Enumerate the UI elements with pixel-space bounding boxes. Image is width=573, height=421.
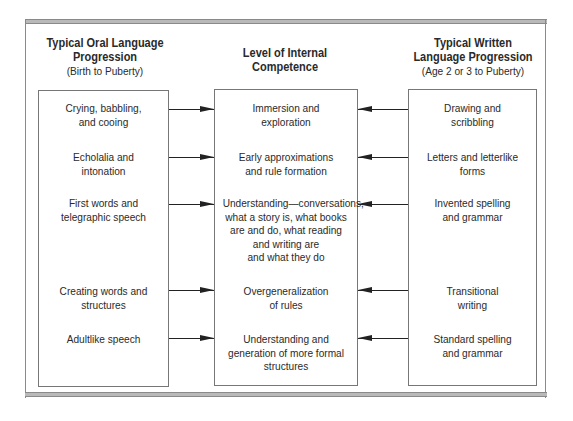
- internal-item-3-line3: are and do, what reading: [223, 224, 350, 238]
- oral-item-3-line1: First words and: [46, 197, 161, 211]
- oral-item-5-line1: Adultlike speech: [46, 333, 161, 347]
- arrow-right-icon: [169, 290, 214, 291]
- oral-item-5: Adultlike speech: [46, 333, 161, 347]
- internal-item-5: Understanding and generation of more for…: [223, 333, 350, 374]
- internal-item-4: Overgeneralization of rules: [223, 285, 350, 312]
- written-title-line2: Language Progression: [403, 50, 544, 64]
- oral-item-3: First words and telegraphic speech: [46, 197, 161, 224]
- oral-column-heading: Typical Oral Language Progression (Birth…: [35, 36, 176, 78]
- written-item-5-line2: and grammar: [416, 347, 530, 361]
- oral-item-3-line2: telegraphic speech: [46, 211, 161, 225]
- internal-item-3-line4: and writing are: [223, 238, 350, 252]
- oral-item-2-line1: Echolalia and: [46, 151, 161, 165]
- internal-item-4-line1: Overgeneralization: [223, 285, 350, 299]
- oral-item-2-line2: intonation: [46, 165, 161, 179]
- arrow-left-icon: [358, 157, 408, 158]
- internal-item-3: Understanding—conversations, what a stor…: [223, 197, 350, 265]
- written-item-3-line1: Invented spelling: [416, 197, 530, 211]
- oral-subtitle: (Birth to Puberty): [35, 64, 176, 78]
- written-item-5-line1: Standard spelling: [416, 333, 530, 347]
- arrow-right-icon: [169, 338, 214, 339]
- internal-item-1-line1: Immersion and: [223, 102, 350, 116]
- arrow-left-icon: [358, 290, 408, 291]
- arrow-left-icon: [358, 109, 408, 110]
- written-title-line1: Typical Written: [403, 36, 544, 50]
- internal-item-3-line2: what a story is, what books: [223, 211, 350, 225]
- internal-item-5-line3: structures: [223, 360, 350, 374]
- written-item-2-line1: Letters and letterlike: [416, 151, 530, 165]
- written-item-5: Standard spelling and grammar: [416, 333, 530, 360]
- internal-item-3-line5: and what they do: [223, 251, 350, 265]
- arrow-right-icon: [169, 157, 214, 158]
- oral-item-4-line2: structures: [46, 299, 161, 313]
- frame-bottom-bar: [25, 392, 547, 397]
- internal-item-2-line1: Early approximations: [223, 151, 350, 165]
- oral-title-line2: Progression: [35, 50, 176, 64]
- oral-item-1: Crying, babbling, and cooing: [46, 102, 161, 129]
- arrow-right-icon: [169, 204, 214, 205]
- written-item-1-line1: Drawing and: [416, 102, 530, 116]
- written-item-4-line2: writing: [416, 299, 530, 313]
- written-item-2-line2: forms: [416, 165, 530, 179]
- written-item-3: Invented spelling and grammar: [416, 197, 530, 224]
- internal-item-5-line2: generation of more formal: [223, 347, 350, 361]
- oral-item-2: Echolalia and intonation: [46, 151, 161, 178]
- internal-item-2-line2: and rule formation: [223, 165, 350, 179]
- oral-item-1-line2: and cooing: [46, 116, 161, 130]
- written-item-4: Transitional writing: [416, 285, 530, 312]
- oral-title-line1: Typical Oral Language: [35, 36, 176, 50]
- arrow-left-icon: [358, 204, 408, 205]
- written-item-4-line1: Transitional: [416, 285, 530, 299]
- oral-item-4: Creating words and structures: [46, 285, 161, 312]
- internal-item-5-line1: Understanding and: [223, 333, 350, 347]
- internal-item-1-line2: exploration: [223, 116, 350, 130]
- arrow-right-icon: [169, 109, 214, 110]
- internal-item-3-line1: Understanding—conversations,: [223, 197, 350, 211]
- internal-title-line1: Level of Internal: [215, 46, 356, 60]
- written-item-1: Drawing and scribbling: [416, 102, 530, 129]
- internal-column-heading: Level of Internal Competence: [215, 46, 356, 74]
- internal-item-1: Immersion and exploration: [223, 102, 350, 129]
- written-item-2: Letters and letterlike forms: [416, 151, 530, 178]
- internal-item-2: Early approximations and rule formation: [223, 151, 350, 178]
- oral-item-1-line1: Crying, babbling,: [46, 102, 161, 116]
- arrow-left-icon: [358, 338, 408, 339]
- internal-item-4-line2: of rules: [223, 299, 350, 313]
- written-item-3-line2: and grammar: [416, 211, 530, 225]
- written-item-1-line2: scribbling: [416, 116, 530, 130]
- written-subtitle: (Age 2 or 3 to Puberty): [403, 64, 544, 78]
- oral-item-4-line1: Creating words and: [46, 285, 161, 299]
- internal-title-line2: Competence: [215, 60, 356, 74]
- written-column-heading: Typical Written Language Progression (Ag…: [403, 36, 544, 78]
